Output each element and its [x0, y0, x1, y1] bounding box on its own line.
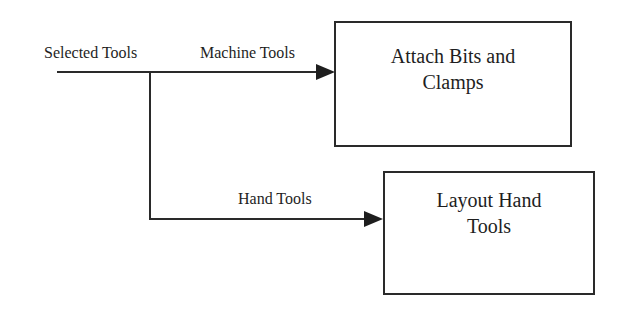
hand-tools-arrowhead-icon — [364, 211, 383, 227]
node-layout-hand-tools: Layout Hand Tools — [383, 171, 595, 295]
machine-tools-arrowhead-icon — [316, 64, 335, 80]
input-label: Selected Tools — [44, 44, 137, 62]
diagram-canvas: Selected Tools Machine Tools Hand Tools … — [0, 0, 631, 312]
node-attach-label: Attach Bits and Clamps — [336, 43, 570, 95]
edge-label-hand-tools: Hand Tools — [238, 190, 312, 208]
node-attach-bits-and-clamps: Attach Bits and Clamps — [334, 21, 572, 147]
node-layout-label: Layout Hand Tools — [385, 187, 593, 239]
node-layout-line-2: Tools — [385, 213, 593, 239]
node-attach-line-1: Attach Bits and — [336, 43, 570, 69]
node-layout-line-1: Layout Hand — [385, 187, 593, 213]
node-attach-line-2: Clamps — [336, 69, 570, 95]
edge-label-machine-tools: Machine Tools — [200, 44, 295, 62]
